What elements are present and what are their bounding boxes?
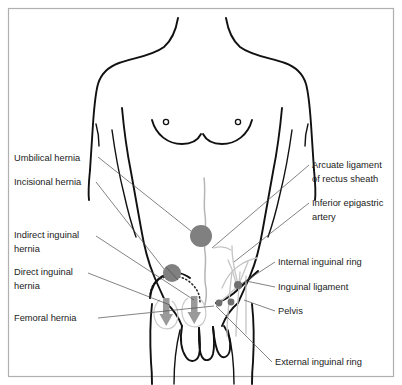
left-arm-inner-outline [89,170,90,200]
leader-inferior-epigastric-artery [234,203,309,262]
right-arm-crease [305,124,308,146]
femoral-ring-marker [228,299,235,306]
genital-outline-left [181,326,200,361]
label-incisional-hernia: Incisional hernia [14,177,82,187]
leader-arcuate-ligament [212,165,309,248]
label-indirect-inguinal-hernia-line2: hernia [14,244,41,254]
left-nipple [163,119,168,124]
right-labels-group: Arcuate ligament of rectus sheath Inferi… [278,160,384,316]
label-direct-inguinal-hernia-line1: Direct inguinal [14,267,73,277]
internal-inguinal-ring-marker [234,281,242,289]
right-neck-shoulder-arm-outline [226,18,314,170]
label-pelvis: Pelvis [278,306,303,316]
left-thigh-outline [150,304,152,384]
hernia-diagram-figure: Umbilical hernia Incisional hernia Indir… [0,0,402,385]
left-neck-shoulder-arm-outline [90,18,178,170]
bottom-labels-group: External inguinal ring [275,357,362,367]
hernia-descent-arrow-left [160,298,174,326]
leader-direct-inguinal-hernia [88,273,170,305]
label-internal-inguinal-ring: Internal inguinal ring [278,257,362,267]
leader-pelvis [244,300,275,311]
label-arcuate-ligament-line1: Arcuate ligament [312,160,382,170]
external-inguinal-ring-marker [216,300,223,307]
left-labels-group: Umbilical hernia Incisional hernia Indir… [14,153,82,323]
leader-external-inguinal-ring [216,306,272,362]
label-umbilical-hernia: Umbilical hernia [14,153,81,163]
label-direct-inguinal-hernia-line2: hernia [14,281,41,291]
cord-branch-1 [240,262,248,282]
umbilical-hernia-marker [190,225,212,247]
genital-outline-center [199,327,214,360]
left-pectoral-curve [152,120,201,144]
label-external-inguinal-ring: External inguinal ring [275,357,362,367]
leader-incisional-hernia [96,182,164,269]
leader-umbilical-hernia [98,157,191,231]
label-inferior-epigastric-artery-line2: artery [312,212,336,222]
label-inferior-epigastric-artery-line1: Inferior epigastric [312,198,384,208]
arcuate-line-path [214,247,231,250]
label-femoral-hernia: Femoral hernia [14,313,77,323]
right-pectoral-curve [203,120,252,144]
label-arcuate-ligament-line2: of rectus sheath [312,174,378,184]
diagram-canvas: Umbilical hernia Incisional hernia Indir… [0,0,402,385]
label-indirect-inguinal-hernia-line1: Indirect inguinal [14,230,79,240]
inguinal-anatomy-group [214,246,258,336]
right-thigh-outline [252,304,254,384]
torso-outline-group [89,18,316,384]
right-nipple [235,119,240,124]
leader-inguinal-ligament [246,281,275,287]
left-arm-crease [96,124,99,146]
right-torso-side-outline [238,108,282,303]
label-inguinal-ligament: Inguinal ligament [278,282,349,292]
hernia-descent-arrow-right [188,296,202,324]
